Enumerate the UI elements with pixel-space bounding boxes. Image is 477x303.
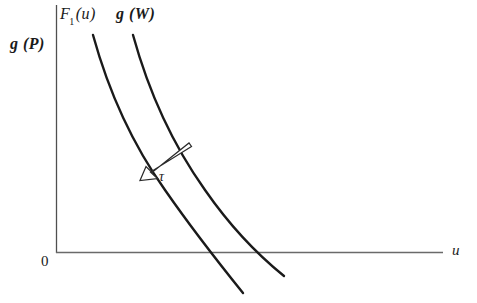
x-axis-label: u [452, 243, 460, 258]
curve-label-f1-suffix: (u) [76, 5, 96, 22]
curve-gw [133, 35, 284, 276]
origin-label: 0 [41, 254, 49, 269]
figure-canvas [0, 0, 477, 303]
curve-label-gw: g (W) [116, 6, 155, 22]
curve-f1 [93, 35, 243, 293]
tau-label: τ [159, 170, 164, 184]
curve-label-f1-subscript: 1 [69, 16, 75, 27]
curve-label-f1: F1(u) [60, 6, 96, 25]
y-axis-label: g (P) [10, 36, 45, 52]
figure-container: g (P) F1(u) g (W) 0 u τ [0, 0, 477, 303]
